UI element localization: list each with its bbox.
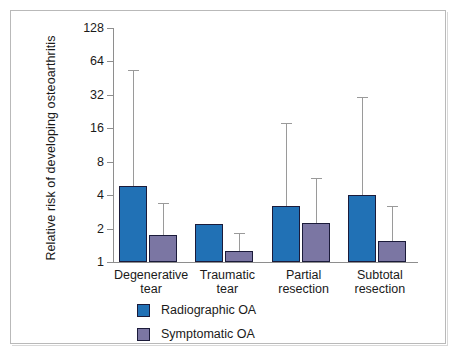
y-axis-title: Relative risk of developing osteoarthrit… <box>42 30 60 265</box>
error-bar <box>239 234 240 252</box>
error-bar <box>316 179 317 223</box>
x-axis-tick-label-line: Partial <box>266 268 342 282</box>
bar-group <box>342 28 418 262</box>
y-axis-tick-label: 4 <box>97 189 104 202</box>
x-axis-tick-label-line: tear <box>113 282 189 296</box>
error-bar-cap <box>281 123 292 124</box>
bar-symptomatic-oa <box>378 241 406 262</box>
error-bar <box>286 124 287 206</box>
bar-radiographic-oa <box>195 224 223 262</box>
y-axis-tick-label: 128 <box>83 22 104 35</box>
figure-container: Relative risk of developing osteoarthrit… <box>0 0 457 359</box>
error-bar <box>163 204 164 235</box>
legend-item-radiographic[interactable]: Radiographic OA <box>137 300 256 320</box>
error-bar <box>392 207 393 240</box>
y-axis-tick-label: 64 <box>90 55 104 68</box>
legend-swatch-radiographic <box>137 304 150 317</box>
x-axis-tick-label-line: tear <box>189 282 265 296</box>
y-axis-tick-label: 16 <box>90 122 104 135</box>
legend-label-radiographic: Radiographic OA <box>161 303 256 317</box>
bar-symptomatic-oa <box>302 223 330 262</box>
error-bar-cap <box>387 206 398 207</box>
y-axis-title-text: Relative risk of developing osteoarthrit… <box>44 35 58 260</box>
plot-area: 1248163264128 DegenerativetearTraumatict… <box>113 28 418 262</box>
x-axis-tick-label: Traumatictear <box>189 268 265 296</box>
error-bar-cap <box>357 97 368 98</box>
y-axis-tick-label: 8 <box>97 155 104 168</box>
error-bar <box>133 71 134 186</box>
y-axis-tick-label: 2 <box>97 222 104 235</box>
bar-group <box>113 28 189 262</box>
x-axis-line <box>113 262 418 263</box>
error-bar-cap <box>234 233 245 234</box>
bar-symptomatic-oa <box>149 235 177 262</box>
x-axis-tick-label: Partialresection <box>266 268 342 296</box>
y-axis-tick-label: 1 <box>97 256 104 269</box>
bar-group <box>266 28 342 262</box>
bar-group <box>189 28 265 262</box>
error-bar <box>362 98 363 195</box>
bar-radiographic-oa <box>119 186 147 262</box>
bar-symptomatic-oa <box>225 251 253 262</box>
x-axis-tick-label-line: Degenerative <box>113 268 189 282</box>
legend-label-symptomatic: Symptomatic OA <box>161 327 255 341</box>
x-axis-tick-label-line: Subtotal <box>342 268 418 282</box>
legend-swatch-symptomatic <box>137 328 150 341</box>
chart-legend: Radiographic OASymptomatic OA <box>137 300 256 348</box>
x-axis-tick-label-line: resection <box>342 282 418 296</box>
y-axis-tick-mark <box>107 262 113 263</box>
error-bar-cap <box>128 70 139 71</box>
x-axis-tick-label-line: Traumatic <box>189 268 265 282</box>
legend-item-symptomatic[interactable]: Symptomatic OA <box>137 324 256 344</box>
y-axis-tick-label: 32 <box>90 89 104 102</box>
bar-radiographic-oa <box>272 206 300 262</box>
error-bar-cap <box>311 178 322 179</box>
x-axis-tick-label-line: resection <box>266 282 342 296</box>
x-axis-tick-label: Degenerativetear <box>113 268 189 296</box>
x-axis-tick-label: Subtotalresection <box>342 268 418 296</box>
error-bar-cap <box>158 203 169 204</box>
bar-radiographic-oa <box>348 195 376 262</box>
